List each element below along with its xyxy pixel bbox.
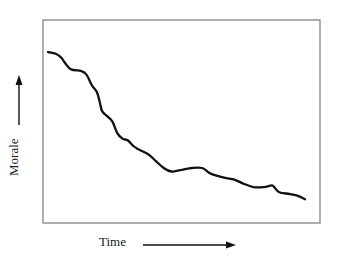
y-axis-label: Morale bbox=[6, 138, 22, 176]
right-arrow-icon bbox=[143, 242, 236, 249]
morale-over-time-chart bbox=[0, 0, 337, 263]
up-arrow-icon bbox=[16, 75, 23, 125]
morale-curve bbox=[48, 52, 305, 199]
x-axis-label: Time bbox=[99, 234, 126, 250]
